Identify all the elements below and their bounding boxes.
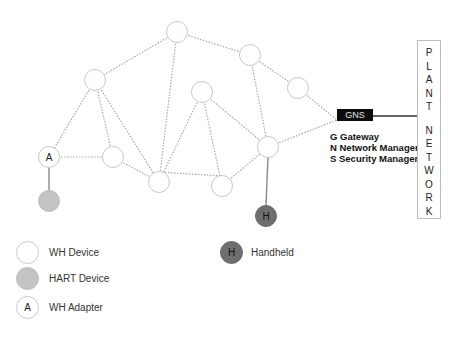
plant-letter: T xyxy=(426,100,432,114)
handheld-icon: H xyxy=(220,241,243,264)
plant-letter: W xyxy=(424,164,433,178)
handheld-glyph: H xyxy=(228,247,235,258)
gns-gateway-box[interactable]: GNS xyxy=(337,109,373,121)
hart-device-node[interactable] xyxy=(38,190,60,212)
legend-label: WH Device xyxy=(49,247,99,258)
hart-device-icon xyxy=(16,267,39,290)
wh-device-node[interactable] xyxy=(239,44,261,66)
wh-device-node[interactable] xyxy=(211,175,233,197)
legend-label: Handheld xyxy=(251,247,294,258)
plant-letter: P xyxy=(426,46,433,60)
plant-letter: R xyxy=(425,191,432,205)
wh-device-node[interactable] xyxy=(148,171,170,193)
node-label: A xyxy=(46,152,53,163)
handheld-node[interactable]: H xyxy=(255,205,277,227)
plant-letter: T xyxy=(426,151,432,165)
plant-letter: N xyxy=(425,124,432,138)
plant-letter: L xyxy=(426,60,432,74)
key-security-manager: S Security Manager xyxy=(330,153,419,164)
wh-device-node[interactable] xyxy=(166,21,188,43)
legend-wh-adapter: A WH Adapter xyxy=(16,296,103,319)
wh-adapter-node[interactable]: A xyxy=(38,146,60,168)
plant-letter: N xyxy=(425,87,432,101)
wh-device-node[interactable] xyxy=(257,136,279,158)
key-gateway: G Gateway xyxy=(330,131,419,142)
legend-label: HART Device xyxy=(49,273,109,284)
plant-network-box: P L A N T N E T W O R K xyxy=(417,40,441,219)
legend-hart-device: HART Device xyxy=(16,267,109,290)
node-label: H xyxy=(262,211,269,222)
wh-device-node[interactable] xyxy=(102,146,124,168)
plant-letter: K xyxy=(426,205,433,219)
wh-device-node[interactable] xyxy=(84,69,106,91)
gns-key: G Gateway N Network Manager S Security M… xyxy=(330,131,419,164)
plant-letter: A xyxy=(426,73,433,87)
legend-handheld: H Handheld xyxy=(220,241,294,264)
plant-letter: E xyxy=(426,137,433,151)
adapter-glyph: A xyxy=(24,302,31,313)
wh-device-node[interactable] xyxy=(191,81,213,103)
wh-adapter-icon: A xyxy=(16,296,39,319)
legend-label: WH Adapter xyxy=(49,302,103,313)
legend-wh-device: WH Device xyxy=(16,241,99,264)
wh-device-node[interactable] xyxy=(287,77,309,99)
plant-letter: O xyxy=(425,178,433,192)
gns-label: GNS xyxy=(345,110,365,120)
key-network-manager: N Network Manager xyxy=(330,142,419,153)
wh-device-icon xyxy=(16,241,39,264)
